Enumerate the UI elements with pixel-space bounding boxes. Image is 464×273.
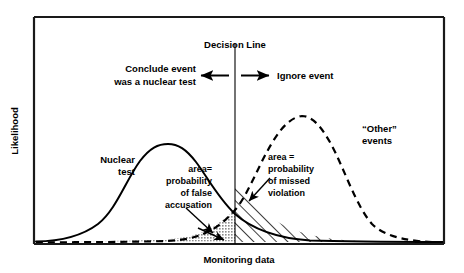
decision-line-label: Decision Line [204,39,266,50]
missed-violation-label-line1: area = [268,152,294,162]
nuclear-test-label-line1: Nuclear [100,154,135,165]
y-axis-label: Likelihood [9,107,20,155]
nuclear-test-label-line2: test [118,166,136,177]
other-events-label-line1: “Other” [362,123,397,134]
false-accusation-label-line1: area= [188,164,212,174]
decision-line-chart: Decision Line Conclude event was a nucle… [0,0,464,273]
missed-violation-label-line2: probability [268,164,314,174]
other-events-label-line2: events [362,135,392,146]
missed-violation-label-line4: violation [268,188,305,198]
x-axis-label: Monitoring data [203,254,275,265]
conclude-event-label-line2: was a nuclear test [113,76,197,87]
false-accusation-label-line4: accusation [165,200,212,210]
figure-container: Decision Line Conclude event was a nucle… [0,0,464,273]
conclude-event-label-line1: Conclude event [125,63,197,74]
missed-violation-label-line3: of missed [268,176,310,186]
false-accusation-label-line2: probability [166,176,212,186]
ignore-event-label: Ignore event [277,70,334,81]
false-accusation-label-line3: of false [180,188,212,198]
